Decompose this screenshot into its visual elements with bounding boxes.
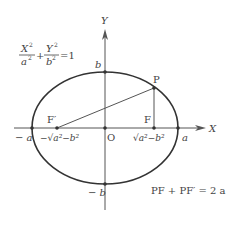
eq-plus: + [36,50,44,61]
label-f-coord: √a²−b² [133,133,165,143]
diagram-canvas: Y X O P F F′ b − b a − a √a²−b² −√a²−b² … [0,0,232,226]
eq-num1: X [20,43,29,54]
point-f [152,126,156,130]
label-neg-b: − b [88,187,106,198]
eq-den1-exp: 2 [28,54,32,61]
label-f-prime: F′ [47,114,57,125]
eq-den2-exp: 2 [52,54,56,61]
point-b [103,70,107,74]
point-f-prime [55,126,59,130]
label-b: b [95,59,101,70]
x-axis-label: X [208,123,217,134]
origin-label: O [107,132,115,143]
eq-num1-exp: 2 [29,41,33,48]
eq-den1: a [21,56,27,67]
label-f: F [144,114,151,125]
point-neg-a [30,126,34,130]
focal-relation: PF + PF′ = 2 a [151,185,226,196]
label-a: a [182,132,188,143]
ellipse-diagram: Y X O P F F′ b − b a − a √a²−b² −√a²−b² … [0,0,232,226]
eq-num2: Y [46,43,54,54]
label-neg-a: − a [15,132,33,143]
ellipse-equation: X 2 a 2 + Y 2 b 2 =1 [19,41,75,67]
point-neg-b [103,182,107,186]
eq-num2-exp: 2 [54,41,58,48]
label-f-prime-coord: −√a²−b² [40,133,80,143]
point-p [152,86,156,90]
point-origin [103,126,107,130]
y-axis-label: Y [101,15,109,26]
point-a [176,126,180,130]
label-p: P [153,74,160,85]
eq-rhs: =1 [60,50,75,61]
